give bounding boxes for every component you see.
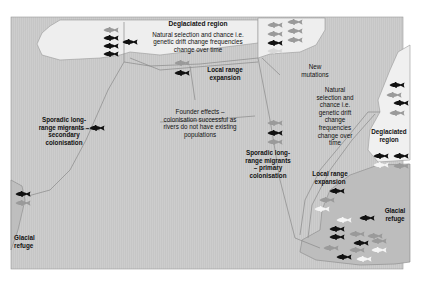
label-local-range-right: Local range expansion [307, 170, 353, 185]
label-new-mutations: New mutations [290, 63, 340, 78]
label-founder-effects: Founder effects – colonisation successfu… [150, 108, 250, 138]
label-title: Deglaciated region [140, 20, 256, 28]
fish-group-founder [268, 120, 283, 146]
label-sporadic-primary: Sporadic long- range migrants – primary … [238, 149, 298, 179]
label-deglaciated-top: Deglaciated region Natural selection and… [140, 20, 256, 53]
label-glacial-refuge-left: Glacial refuge [14, 234, 38, 249]
label-glacial-refuge-right: Glacial refuge [380, 207, 410, 222]
label-sporadic-secondary: Sporadic long- range migrants – secondar… [36, 116, 92, 146]
label-local-range-top: Local range expansion [200, 66, 250, 81]
label-deglaciated-right: Deglaciated region [368, 128, 410, 143]
label-natural-selection-right: Natural selection and chance i.e. geneti… [310, 86, 360, 147]
